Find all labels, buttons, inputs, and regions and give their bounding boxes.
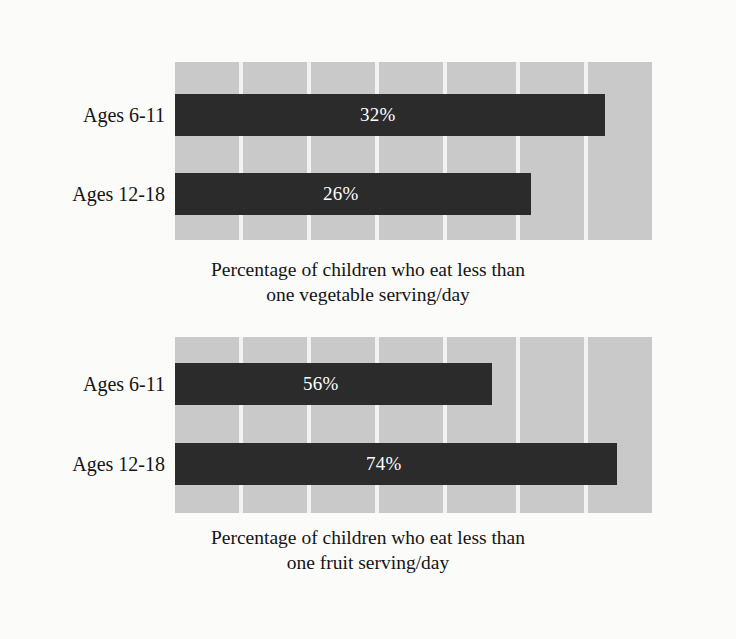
bar-value-label: 74%	[366, 453, 402, 475]
caption-line-2: one vegetable serving/day	[0, 282, 736, 307]
bar-row: 26%	[175, 173, 652, 215]
chart-vegetable-serving: 32% 26% Ages 6-11 Ages 12-18 Percentage …	[0, 0, 736, 320]
category-label-ages-12-18: Ages 12-18	[30, 453, 165, 476]
category-label-ages-6-11: Ages 6-11	[30, 373, 165, 396]
category-label-ages-6-11: Ages 6-11	[30, 104, 165, 127]
figure-root: 32% 26% Ages 6-11 Ages 12-18 Percentage …	[0, 0, 736, 639]
bar-value-label: 56%	[303, 373, 339, 395]
category-label-ages-12-18: Ages 12-18	[30, 183, 165, 206]
bar-row: 56%	[175, 363, 652, 405]
bar-value-label: 32%	[360, 104, 396, 126]
bar-row: 74%	[175, 443, 652, 485]
plot-area-vegetable: 32% 26%	[175, 62, 652, 240]
caption-line-1: Percentage of children who eat less than	[0, 257, 736, 282]
caption-fruit: Percentage of children who eat less than…	[0, 525, 736, 576]
bar-row: 32%	[175, 94, 652, 136]
plot-area-fruit: 56% 74%	[175, 337, 652, 513]
bar-value-label: 26%	[323, 183, 359, 205]
caption-line-1: Percentage of children who eat less than	[0, 525, 736, 550]
caption-line-2: one fruit serving/day	[0, 550, 736, 575]
chart-fruit-serving: 56% 74% Ages 6-11 Ages 12-18 Percentage …	[0, 320, 736, 639]
caption-vegetable: Percentage of children who eat less than…	[0, 257, 736, 308]
